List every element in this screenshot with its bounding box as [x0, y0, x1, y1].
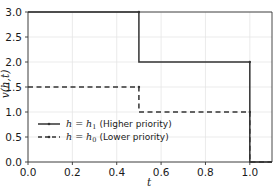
y-tick-label: 0.0: [5, 156, 22, 168]
y-tick-label: 1.0: [5, 106, 22, 118]
x-tick-label: 0.0: [20, 166, 37, 178]
x-tick-label: 0.2: [64, 166, 81, 178]
x-tick-label: 0.4: [108, 166, 125, 178]
chart-figure: 0.00.20.40.60.81.0 0.00.51.01.52.02.53.0…: [0, 0, 277, 190]
series-marker-0: [249, 61, 251, 63]
series-marker-1: [138, 86, 140, 88]
y-axis-label: v(h,t): [0, 70, 11, 98]
y-tick-label: 2.5: [5, 31, 22, 43]
y-tick-label: 2.0: [5, 56, 22, 68]
x-tick-label: 0.6: [153, 166, 170, 178]
y-tick-label: 0.5: [5, 131, 22, 143]
x-tick-label: 0.8: [197, 166, 214, 178]
step-plot: 0.00.20.40.60.81.0 0.00.51.01.52.02.53.0…: [0, 0, 277, 190]
legend-marker-1: [48, 136, 51, 139]
series-marker-1: [249, 111, 251, 113]
legend-marker-0: [48, 123, 51, 126]
y-tick-label: 3.0: [5, 6, 22, 18]
x-tick-label: 1.0: [241, 166, 258, 178]
